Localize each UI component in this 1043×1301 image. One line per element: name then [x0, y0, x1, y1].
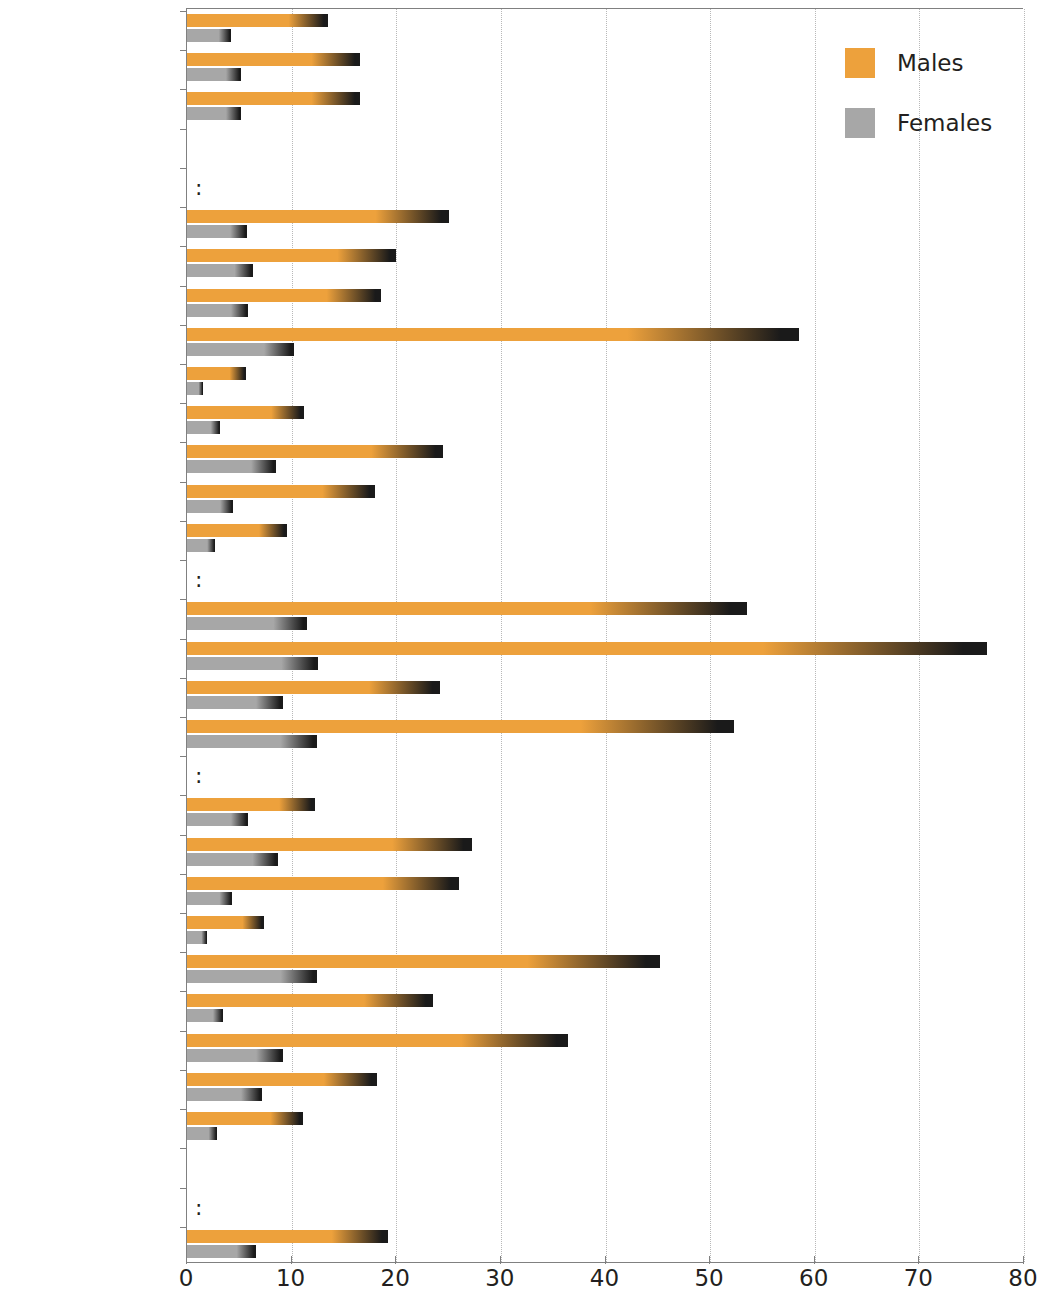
- x-axis-label-20: 20: [381, 1265, 410, 1291]
- bar-females: [187, 1049, 283, 1062]
- bar-males: [187, 445, 443, 458]
- x-axis-tick-50: [709, 1256, 710, 1264]
- legend-swatch-males: [845, 48, 875, 78]
- bar-males: [187, 1112, 303, 1125]
- table-row: Poland: [187, 874, 1023, 913]
- table-row: Slovenia: [187, 952, 1023, 991]
- legend-label-females: Females: [897, 110, 992, 136]
- table-row: Luxembourg: [187, 678, 1023, 717]
- y-axis-tick: [180, 795, 187, 796]
- y-axis-tick: [180, 50, 187, 51]
- bar-females: [187, 264, 253, 277]
- bar-males: [187, 1073, 377, 1086]
- bar-females: [187, 892, 232, 905]
- bar-males: [187, 955, 660, 968]
- bar-males: [187, 602, 747, 615]
- y-axis-tick: [180, 286, 187, 287]
- x-axis-label-80: 80: [1008, 1265, 1037, 1291]
- x-axis-label-70: 70: [904, 1265, 933, 1291]
- y-axis-tick: [180, 168, 187, 169]
- bar-males: [187, 485, 375, 498]
- x-axis-label-0: 0: [179, 1265, 194, 1291]
- legend-label-males: Males: [897, 50, 963, 76]
- y-axis-tick: [180, 913, 187, 914]
- bar-males: [187, 328, 799, 341]
- bar-males: [187, 53, 360, 66]
- x-axis-label-10: 10: [276, 1265, 305, 1291]
- no-data-marker: :: [195, 1188, 202, 1227]
- x-axis-label-60: 60: [799, 1265, 828, 1291]
- bar-females: [187, 657, 318, 670]
- table-row: Netherlands: [187, 795, 1023, 834]
- x-axis-tick-30: [500, 1256, 501, 1264]
- x-axis-tick-0: [186, 1256, 187, 1264]
- table-row: Belgium:: [187, 168, 1023, 207]
- chart-legend: MalesFemales: [845, 48, 1035, 168]
- table-row: Iceland:: [187, 1188, 1023, 1227]
- x-axis-tick-60: [814, 1256, 815, 1264]
- bar-females: [187, 813, 248, 826]
- y-axis-tick: [180, 364, 187, 365]
- bar-males: [187, 1230, 388, 1243]
- bar-males: [187, 210, 449, 223]
- y-axis-tick: [180, 1031, 187, 1032]
- bar-females: [187, 500, 233, 513]
- table-row: Austria: [187, 835, 1023, 874]
- bar-males: [187, 720, 734, 733]
- bar-females: [187, 617, 307, 630]
- y-axis-tick: [180, 599, 187, 600]
- bar-females: [187, 1088, 262, 1101]
- bar-females: [187, 460, 276, 473]
- x-axis-label-50: 50: [694, 1265, 723, 1291]
- no-data-marker: :: [195, 756, 202, 795]
- bar-females: [187, 735, 317, 748]
- y-axis-tick: [180, 521, 187, 522]
- y-axis-tick: [180, 874, 187, 875]
- bar-females: [187, 107, 241, 120]
- bar-chart: EU-25EU-15Euro-zoneBelgium:Czech Republi…: [0, 0, 1043, 1301]
- y-axis-tick: [180, 991, 187, 992]
- table-row: Slovakia: [187, 991, 1023, 1030]
- table-row: United Kingdom: [187, 1109, 1023, 1148]
- y-axis-tick: [180, 246, 187, 247]
- y-axis-tick: [180, 403, 187, 404]
- x-axis: 01020304050607080: [0, 1265, 1043, 1299]
- y-axis-tick: [180, 756, 187, 757]
- table-row: Cyprus:: [187, 560, 1023, 599]
- bar-females: [187, 421, 220, 434]
- bar-females: [187, 970, 317, 983]
- bar-females: [187, 931, 207, 944]
- table-row: Estonia: [187, 325, 1023, 364]
- bar-females: [187, 225, 247, 238]
- y-axis-tick: [180, 1227, 187, 1228]
- bar-females: [187, 304, 248, 317]
- bar-males: [187, 14, 328, 27]
- bar-males: [187, 838, 472, 851]
- y-axis-tick: [180, 89, 187, 90]
- legend-swatch-females: [845, 108, 875, 138]
- no-data-marker: :: [195, 560, 202, 599]
- bar-females: [187, 382, 203, 395]
- bar-males: [187, 1034, 568, 1047]
- bar-males: [187, 916, 264, 929]
- table-row: Portugal: [187, 913, 1023, 952]
- bar-males: [187, 877, 459, 890]
- x-axis-tick-40: [605, 1256, 606, 1264]
- table-row: Ireland: [187, 482, 1023, 521]
- x-axis-tick-10: [291, 1256, 292, 1264]
- table-row: Italy: [187, 521, 1023, 560]
- table-row: Hungary: [187, 717, 1023, 756]
- table-row: Sweden: [187, 1070, 1023, 1109]
- bar-females: [187, 68, 241, 81]
- table-row: Lithuania: [187, 639, 1023, 678]
- bar-males: [187, 367, 246, 380]
- table-row: Latvia: [187, 599, 1023, 638]
- y-axis-tick: [180, 1188, 187, 1189]
- y-axis-tick: [180, 717, 187, 718]
- x-axis-label-40: 40: [590, 1265, 619, 1291]
- bar-males: [187, 798, 315, 811]
- y-axis-tick: [180, 639, 187, 640]
- y-axis-tick: [180, 325, 187, 326]
- y-axis-tick: [180, 952, 187, 953]
- bar-males: [187, 524, 287, 537]
